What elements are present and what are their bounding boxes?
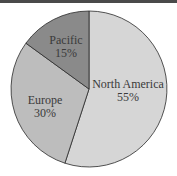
label-europe-pct: 30% (34, 106, 56, 120)
label-europe-name: Europe (28, 93, 63, 107)
label-north-america-name: North America (92, 77, 164, 91)
label-pacific-name: Pacific (49, 33, 82, 47)
label-pacific-pct: 15% (55, 46, 77, 60)
pie-chart: North America 55% Europe 30% Pacific 15% (0, 0, 177, 176)
label-north-america-pct: 55% (117, 90, 139, 104)
